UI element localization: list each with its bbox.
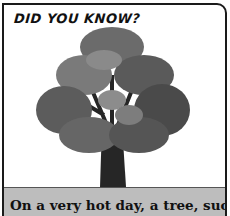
fact-caption: On a very hot day, a tree, such	[10, 197, 227, 213]
did-you-know-card: DID YOU KNOW? On a very hot day, a tree,…	[2, 3, 227, 216]
tree-illustration	[4, 5, 225, 190]
